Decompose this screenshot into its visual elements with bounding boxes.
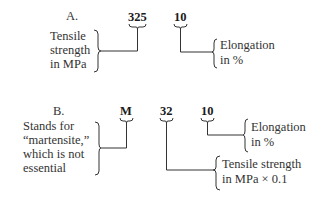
label-martensite-line3: which is not bbox=[23, 147, 84, 161]
connector-32 bbox=[167, 123, 214, 170]
underbrace-m bbox=[120, 118, 133, 123]
underbrace-10-b bbox=[201, 118, 214, 123]
connector-10-b bbox=[208, 123, 244, 135]
code-part-tensile-b: 32 bbox=[160, 104, 173, 118]
label-elongation-b-line1: Elongation bbox=[251, 120, 306, 134]
connector-10-a bbox=[181, 29, 214, 52]
underbrace-325 bbox=[129, 24, 146, 29]
code-part-elongation-a: 10 bbox=[174, 10, 187, 24]
brace-tensile-b bbox=[213, 156, 220, 190]
brace-martensite bbox=[95, 122, 101, 175]
code-part-martensite: M bbox=[120, 104, 132, 118]
section-b-heading: B. bbox=[53, 104, 64, 118]
label-martensite-line2: “martensite,” bbox=[23, 133, 89, 147]
label-elongation-b-line2: in % bbox=[251, 135, 274, 149]
label-tensile-a-line2: strength bbox=[50, 43, 90, 57]
label-tensile-a-line1: Tensile bbox=[50, 29, 86, 43]
code-part-elongation-b: 10 bbox=[201, 104, 214, 118]
label-elongation-a-line1: Elongation bbox=[220, 38, 275, 52]
code-part-tensile-a: 325 bbox=[128, 10, 147, 24]
brace-tensile-a bbox=[94, 30, 101, 72]
label-martensite-line1: Stands for bbox=[23, 119, 74, 133]
brace-elongation-b bbox=[243, 119, 248, 152]
connector-m bbox=[101, 123, 127, 148]
label-elongation-a-line2: in % bbox=[220, 53, 243, 67]
label-tensile-b-line1: Tensile strength bbox=[222, 157, 301, 171]
underbrace-10-a bbox=[174, 24, 187, 29]
brace-elongation-a bbox=[212, 39, 217, 68]
label-tensile-b-line2: in MPa × 0.1 bbox=[222, 172, 287, 186]
label-tensile-a-line3: in MPa bbox=[50, 57, 86, 71]
label-martensite-line4: essential bbox=[23, 161, 66, 175]
underbrace-32 bbox=[160, 118, 173, 123]
connector-325 bbox=[101, 29, 138, 51]
section-a-heading: A. bbox=[66, 9, 78, 23]
